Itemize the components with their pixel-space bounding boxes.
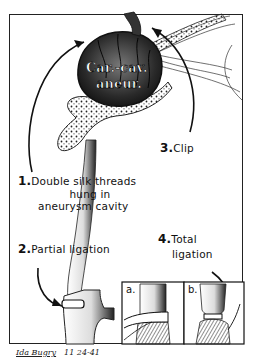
carotid-artery — [68, 140, 96, 302]
arrow-step2 — [38, 268, 62, 306]
sac-label-line1: Car.-cav. — [86, 60, 147, 75]
step4-line2: ligation — [172, 248, 213, 260]
step1-line2: hung in — [60, 188, 120, 200]
step3-label: 3.Clip — [160, 142, 194, 154]
inset-a-label: a. — [126, 284, 135, 295]
step1-line3: aneurysm cavity — [38, 200, 128, 212]
signature-date: 11 24-41 — [64, 348, 100, 357]
sac-label-line2: aneur. — [96, 76, 142, 91]
carotid-bifurcation — [63, 290, 114, 344]
artist-signature: Ida Bugry11 24-41 — [16, 348, 100, 357]
step2-label: 2.Partial ligation — [18, 243, 110, 255]
inset-b-label: b. — [188, 284, 198, 295]
step4-label: 4.Total — [158, 233, 197, 245]
partial-ligature — [62, 300, 84, 308]
step1-label: 1.Double silk threads — [18, 175, 136, 187]
